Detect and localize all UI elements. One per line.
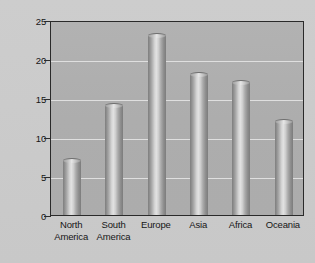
y-axis-tick-labels: 0510152025 [26,16,46,220]
bar-cap [63,158,81,163]
plot-area [50,21,304,216]
bar-slot [263,22,304,215]
chart-figure: Percentage of land area with soil degrad… [0,0,315,263]
bar [232,82,250,215]
y-axis-tick-label: 5 [26,172,46,183]
y-axis-tick-label: 10 [26,133,46,144]
y-axis-tick-label: 25 [26,16,46,27]
bar-cap [275,119,293,124]
bar [63,160,81,215]
y-axis-tick-label: 20 [26,55,46,66]
x-axis-category-label-line: Oceania [253,219,313,231]
bar-slot [136,22,178,215]
bar-cap [148,33,166,38]
y-axis-tick-label: 15 [26,94,46,105]
bar-slot [220,22,262,215]
bar [148,36,166,215]
bar-slot [178,22,220,215]
x-axis-category-labels: NorthAmericaSouthAmericaEuropeAsiaAfrica… [50,219,304,259]
bar [190,75,208,215]
bar [275,121,293,215]
bar-series [51,22,303,215]
bar-cap [190,72,208,77]
bar-slot [93,22,135,215]
bar-cap [105,103,123,108]
y-axis-title: Percentage of land area with soil degrad… [2,0,28,44]
x-axis-category-label: Oceania [253,219,313,231]
y-axis-tick-mark [44,216,51,217]
x-axis-category-label-line: America [84,231,144,243]
bar-slot [51,22,93,215]
bar-cap [232,80,250,85]
bar [105,106,123,215]
